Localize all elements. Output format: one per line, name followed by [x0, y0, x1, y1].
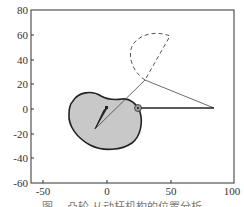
- svg-text:20: 20: [17, 78, 29, 90]
- svg-text:0: 0: [104, 185, 110, 197]
- cam-mechanism-diagram: 80 60 40 20 0 -20 -40 -60 -50 0 50 100: [0, 0, 244, 207]
- svg-text:0: 0: [23, 103, 29, 115]
- svg-text:-40: -40: [13, 152, 28, 164]
- svg-text:-20: -20: [13, 128, 28, 140]
- x-tick-labels: -50 0 50 100: [36, 185, 241, 197]
- svg-text:50: 50: [166, 185, 178, 197]
- figure-caption: 图 ... 凸轮-从动杆机构的位置分析: [0, 198, 244, 207]
- y-tick-labels: 80 60 40 20 0 -20 -40 -60: [13, 4, 28, 189]
- svg-text:-60: -60: [13, 177, 28, 189]
- plot-frame: [31, 10, 234, 183]
- svg-text:80: 80: [17, 4, 29, 16]
- roller-center: [137, 107, 139, 109]
- rocker-arm: [145, 80, 214, 108]
- cam-body: [69, 93, 141, 150]
- svg-text:40: 40: [17, 54, 29, 66]
- svg-text:100: 100: [224, 185, 241, 197]
- svg-text:-50: -50: [36, 185, 51, 197]
- dashed-swept-arc: [130, 33, 170, 80]
- pivot-marker: [105, 106, 108, 109]
- svg-text:60: 60: [17, 29, 29, 41]
